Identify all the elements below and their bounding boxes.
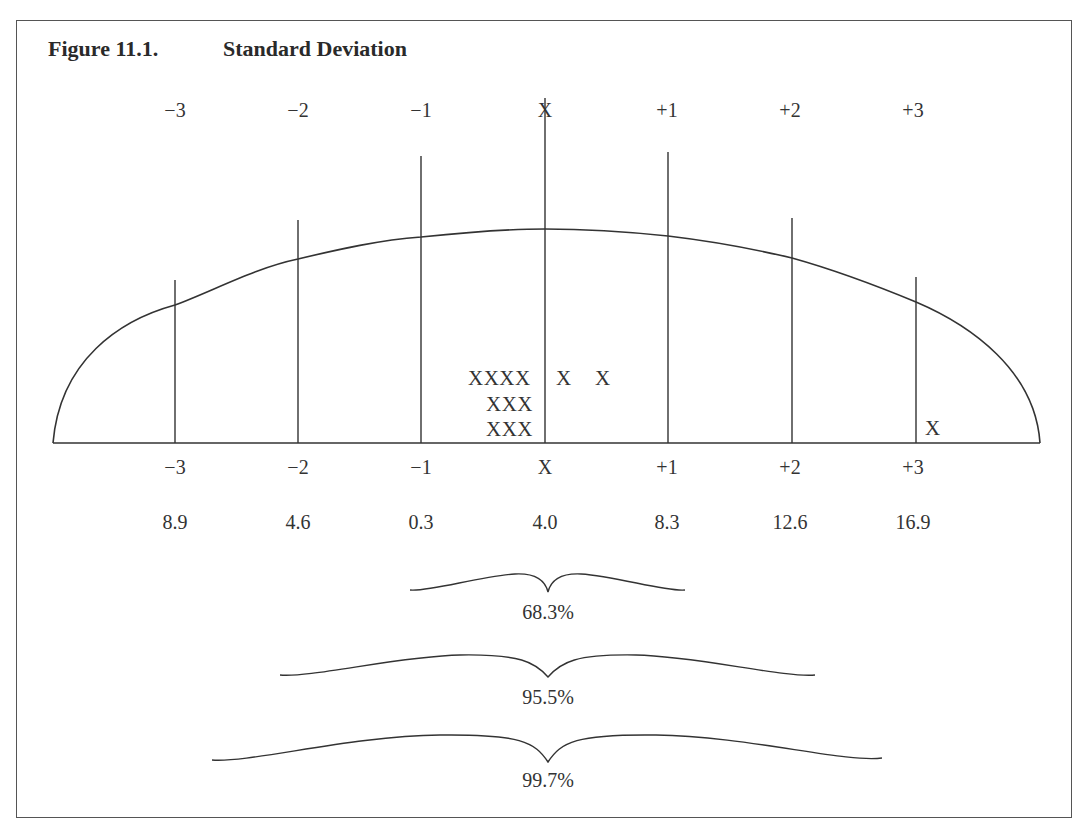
data-mark-row1-right-a: X xyxy=(556,366,572,391)
brace-95 xyxy=(280,655,815,677)
value-mean: 4.0 xyxy=(533,511,558,534)
percent-label-68: 68.3% xyxy=(522,601,574,624)
value-minus3: 8.9 xyxy=(163,511,188,534)
value-plus2: 12.6 xyxy=(773,511,808,534)
value-minus2: 4.6 xyxy=(286,511,311,534)
brace-68 xyxy=(410,574,685,592)
brace-99 xyxy=(212,735,882,762)
distribution-curve xyxy=(53,229,1040,443)
bottom-label-minus3: −3 xyxy=(164,456,185,479)
bottom-label-minus1: −1 xyxy=(410,456,431,479)
data-marks-row1-left: XXXX xyxy=(468,366,531,391)
data-mark-row1-right-b: X xyxy=(595,366,611,391)
value-plus1: 8.3 xyxy=(655,511,680,534)
data-mark-outlier: X xyxy=(925,416,941,441)
value-plus3: 16.9 xyxy=(896,511,931,534)
sd-lines xyxy=(175,98,916,443)
data-marks-row3: XXX xyxy=(486,417,533,442)
bottom-label-plus2: +2 xyxy=(779,456,800,479)
value-minus1: 0.3 xyxy=(409,511,434,534)
bottom-label-mean: X xyxy=(538,456,552,479)
bottom-label-minus2: −2 xyxy=(287,456,308,479)
bottom-label-plus1: +1 xyxy=(656,456,677,479)
percent-label-99: 99.7% xyxy=(522,769,574,792)
percent-label-95: 95.5% xyxy=(522,686,574,709)
data-marks-row2: XXX xyxy=(486,392,533,417)
bottom-label-plus3: +3 xyxy=(902,456,923,479)
